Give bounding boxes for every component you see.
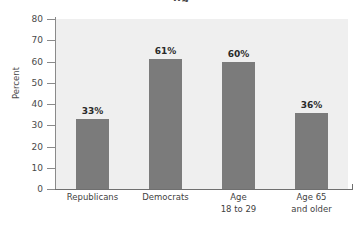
y-tick-mark [47, 168, 55, 169]
x-tick-label: Democrats [129, 192, 202, 204]
bar-value-label: 61% [155, 46, 177, 56]
chart-title-clipped: ng [0, 0, 362, 2]
bar-group: 36% [295, 19, 328, 189]
x-tick-label-line: Age 65 [275, 192, 348, 204]
bar-value-label: 33% [82, 106, 104, 116]
y-tick-mark [47, 147, 55, 148]
y-tick-mark [47, 40, 55, 41]
y-tick-mark [47, 83, 55, 84]
y-tick-label: 30 [0, 120, 43, 130]
y-tick-label: 60 [0, 57, 43, 67]
x-axis-line [48, 189, 353, 190]
bar-group: 33% [76, 19, 109, 189]
x-tick-label: Age 65and older [275, 192, 348, 215]
y-tick-mark [47, 104, 55, 105]
x-tick-label-line: 18 to 29 [202, 204, 275, 216]
y-tick-label: 50 [0, 78, 43, 88]
bar-group: 60% [222, 19, 255, 189]
y-tick-mark [47, 189, 55, 190]
x-tick-label: Age18 to 29 [202, 192, 275, 215]
y-tick-mark [47, 19, 55, 20]
bar [222, 62, 255, 190]
y-tick-label: 20 [0, 142, 43, 152]
bar-value-label: 36% [301, 100, 323, 110]
y-tick-label: 40 [0, 99, 43, 109]
x-tick-label: Republicans [56, 192, 129, 204]
bar [76, 119, 109, 189]
x-axis-labels: RepublicansDemocratsAge18 to 29Age 65and… [56, 192, 348, 228]
y-tick-label: 70 [0, 35, 43, 45]
x-axis-end-tick [352, 184, 353, 190]
bar-group: 61% [149, 19, 182, 189]
x-tick-label-line: Democrats [129, 192, 202, 204]
y-tick-label: 80 [0, 14, 43, 24]
bar-value-label: 60% [228, 49, 250, 59]
bars-layer: 33%61%60%36% [56, 19, 348, 189]
x-tick-label-line: Age [202, 192, 275, 204]
y-tick-label: 10 [0, 163, 43, 173]
bar [149, 59, 182, 189]
y-tick-label: 0 [0, 184, 43, 194]
x-tick-label-line: and older [275, 204, 348, 216]
bar-chart: ng Percent 01020304050607080 33%61%60%36… [0, 0, 362, 229]
x-tick-label-line: Republicans [56, 192, 129, 204]
bar [295, 113, 328, 190]
y-tick-mark [47, 125, 55, 126]
y-tick-mark [47, 62, 55, 63]
